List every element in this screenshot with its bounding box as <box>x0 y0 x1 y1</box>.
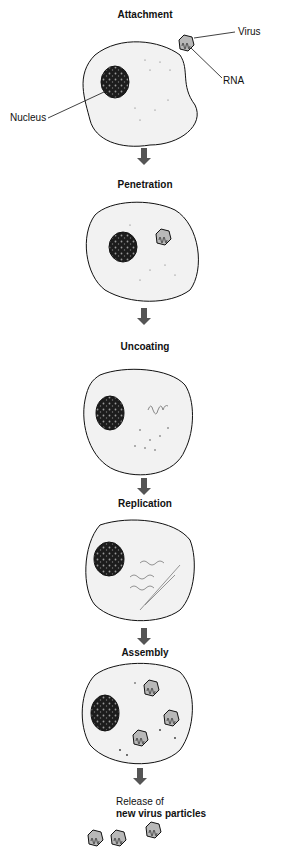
attachment-stage <box>48 32 235 165</box>
virus-icon <box>146 822 161 838</box>
virus-icon <box>111 830 126 846</box>
virus-lifecycle-diagram <box>0 0 281 847</box>
stage-label-assembly: Assembly <box>75 647 215 658</box>
stage-label-replication: Replication <box>75 498 215 509</box>
callout-nucleus: Nucleus <box>10 112 46 123</box>
penetration-stage <box>86 202 198 325</box>
stage-label-penetration: Penetration <box>75 179 215 190</box>
assembly-stage <box>82 663 192 785</box>
release-label-line1: Release of <box>116 796 164 807</box>
stage-label-attachment: Attachment <box>75 9 215 20</box>
stage-label-release: Release of new virus particles <box>116 796 206 820</box>
callout-virus: Virus <box>238 26 261 37</box>
nucleus <box>101 66 129 98</box>
stage-label-uncoating: Uncoating <box>75 341 215 352</box>
virus-icon <box>88 830 103 846</box>
replication-stage <box>86 520 195 645</box>
release-stage <box>88 822 161 846</box>
callout-rna: RNA <box>223 75 244 86</box>
release-label-line2: new virus particles <box>116 808 206 820</box>
uncoating-stage <box>84 369 193 495</box>
